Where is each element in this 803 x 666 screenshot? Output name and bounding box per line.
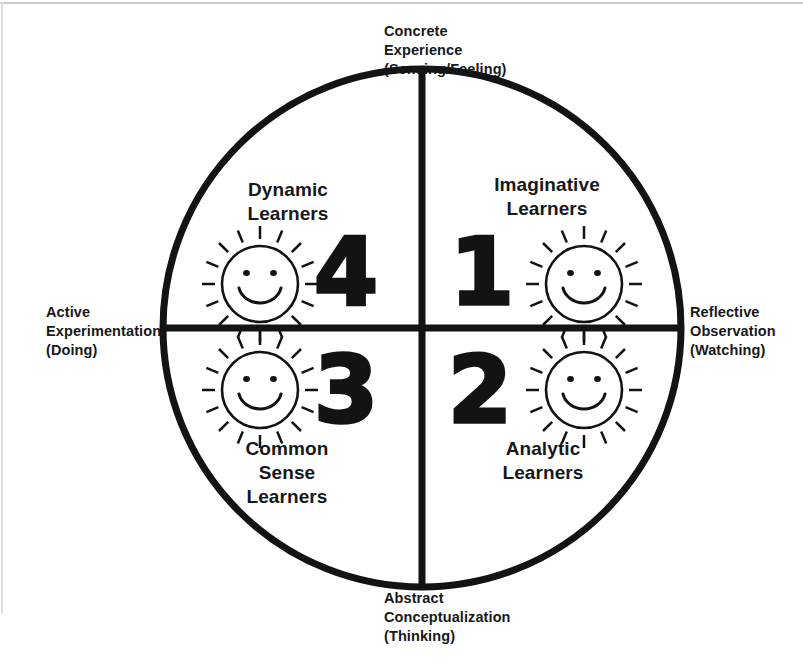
quadrant-label-imaginative-learners: Imaginative Learners (452, 173, 642, 221)
diagram-canvas: Concrete Experience (Sensing/Feeling) Re… (0, 0, 803, 666)
sun-smiley-icon-quadrant-2 (526, 332, 642, 448)
axis-label-active-experimentation: Active Experimentation (Doing) (46, 303, 161, 360)
quadrant-number-1: 1 (442, 227, 522, 319)
quadrant-number-3: 3 (306, 345, 386, 437)
quadrant-number-2: 2 (440, 345, 520, 437)
quadrant-number-4: 4 (306, 227, 386, 319)
quadrant-label-analytic-learners: Analytic Learners (452, 437, 634, 485)
sun-smiley-icon-quadrant-3 (202, 332, 318, 448)
axis-label-abstract-conceptualization: Abstract Conceptualization (Thinking) (384, 589, 511, 646)
axis-label-reflective-observation: Reflective Observation (Watching) (690, 303, 776, 360)
quadrant-label-common-sense-learners: Common Sense Learners (197, 437, 377, 509)
axis-label-concrete-experience: Concrete Experience (Sensing/Feeling) (384, 22, 507, 79)
